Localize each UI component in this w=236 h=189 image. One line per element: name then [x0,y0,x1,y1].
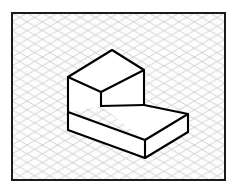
edge-lower-top-left [101,105,144,106]
isometric-drawing-screenshot [0,0,236,189]
drawing-canvas [0,0,236,189]
